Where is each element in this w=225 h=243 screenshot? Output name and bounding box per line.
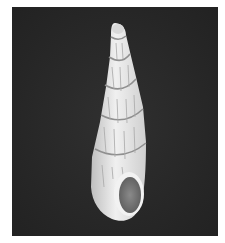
shell-illustration: [12, 7, 218, 236]
specimen-photo: [12, 7, 218, 236]
